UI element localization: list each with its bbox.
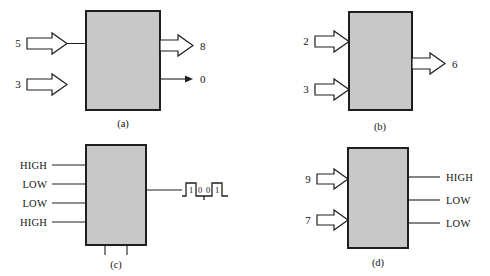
panel-a-output-arrow-2 (160, 76, 193, 83)
panel-c-input-label-1: HIGH (20, 160, 47, 171)
block-arrow-icon (160, 35, 193, 56)
panel-a: 5 3 8 0 (a) (15, 11, 206, 130)
block-arrow-icon (412, 53, 445, 74)
panel-d-block (348, 148, 408, 248)
panel-c: HIGH LOW LOW HIGH 1 0 0 1 (c) (20, 145, 228, 271)
panel-a-output-label-1: 8 (200, 40, 206, 52)
panel-c-waveform-bit-2: 0 (198, 185, 202, 195)
panel-a-output-label-2: 0 (200, 73, 206, 85)
block-arrow-icon (315, 79, 349, 100)
block-arrow-icon (27, 74, 67, 95)
block-arrow-icon (315, 31, 349, 52)
panel-b-output-label-1: 6 (452, 58, 458, 70)
panel-d-output-label-1: HIGH (446, 172, 473, 183)
panel-c-block (86, 145, 146, 245)
arrow-head-icon (185, 76, 193, 83)
panel-b-caption: (b) (374, 121, 387, 133)
panel-d-input-arrow-2 (317, 210, 348, 230)
block-arrow-icon (317, 210, 348, 230)
panel-c-input-label-3: LOW (22, 198, 47, 209)
panel-c-caption: (c) (110, 259, 122, 271)
panel-d-input-label-1: 9 (305, 173, 311, 185)
panel-b-output-arrow-1 (412, 53, 445, 74)
figure-container: 5 3 8 0 (a) 2 (0, 0, 490, 276)
block-diagram-figure: 5 3 8 0 (a) 2 (0, 0, 490, 276)
panel-a-block (86, 11, 160, 110)
panel-a-input-label-2: 3 (15, 78, 21, 90)
panel-d-caption: (d) (372, 257, 385, 269)
panel-d-output-label-3: LOW (446, 218, 471, 229)
panel-b-input-arrow-1 (315, 31, 349, 52)
panel-c-input-label-2: LOW (22, 179, 47, 190)
panel-b-input-arrow-2 (315, 79, 349, 100)
panel-a-output-arrow-1 (160, 35, 193, 56)
panel-b-input-label-2: 3 (303, 83, 309, 95)
panel-c-waveform-bit-4: 1 (215, 185, 219, 195)
panel-a-input-label-1: 5 (15, 37, 21, 49)
panel-d-input-arrow-1 (317, 169, 348, 189)
panel-c-input-label-4: HIGH (20, 217, 47, 228)
panel-a-input-arrow-2 (27, 74, 67, 95)
panel-b-input-label-1: 2 (303, 35, 309, 47)
panel-c-waveform-bit-1: 1 (189, 185, 193, 195)
panel-a-caption: (a) (117, 118, 129, 130)
panel-d: 9 7 HIGH LOW LOW (d) (305, 148, 473, 269)
panel-d-input-label-2: 7 (305, 214, 311, 226)
panel-d-output-label-2: LOW (446, 195, 471, 206)
panel-a-input-arrow-1 (27, 33, 86, 54)
panel-c-waveform-bit-3: 0 (206, 185, 210, 195)
panel-b: 2 3 6 (b) (303, 12, 458, 133)
block-arrow-icon (317, 169, 348, 189)
block-arrow-icon (27, 33, 67, 54)
panel-b-block (349, 12, 412, 110)
